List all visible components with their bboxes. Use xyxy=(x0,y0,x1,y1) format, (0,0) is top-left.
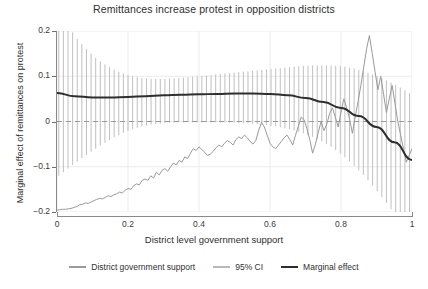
x-axis-line xyxy=(57,216,413,217)
chart-legend: District government support95% CIMargina… xyxy=(0,262,428,272)
y-tick-mark xyxy=(52,31,56,32)
legend-item[interactable]: Marginal effect xyxy=(281,262,359,272)
y-tick-label: 0.2 xyxy=(22,25,50,35)
chart-figure: Remittances increase protest in oppositi… xyxy=(0,0,428,289)
legend-swatch-marginal xyxy=(281,266,298,268)
x-axis-start-cap xyxy=(57,212,58,217)
legend-item[interactable]: District government support xyxy=(69,262,195,272)
x-axis-end-cap xyxy=(412,212,413,217)
plot-area xyxy=(57,31,412,212)
legend-item[interactable]: 95% CI xyxy=(213,262,263,272)
legend-swatch-ci xyxy=(213,266,230,267)
y-tick-mark xyxy=(52,122,56,123)
y-tick-label: 0.1 xyxy=(22,70,50,80)
legend-label: District government support xyxy=(91,262,195,272)
legend-label: 95% CI xyxy=(235,262,263,272)
y-tick-label: −0.1 xyxy=(22,161,50,171)
y-tick-mark xyxy=(52,212,56,213)
x-axis-label: District level government support xyxy=(0,234,428,245)
chart-title: Remittances increase protest in oppositi… xyxy=(0,3,428,15)
x-tick-label: 0.6 xyxy=(260,219,280,229)
x-tick-label: 0.2 xyxy=(118,219,138,229)
x-tick-label: 0.4 xyxy=(189,219,209,229)
legend-swatch-support xyxy=(69,266,86,267)
plot-svg xyxy=(57,31,412,212)
y-tick-mark xyxy=(52,76,56,77)
y-tick-mark xyxy=(52,167,56,168)
x-tick-label: 0.8 xyxy=(331,219,351,229)
y-tick-label: −0.2 xyxy=(22,206,50,216)
y-tick-label: 0 xyxy=(22,116,50,126)
legend-label: Marginal effect xyxy=(303,262,359,272)
x-tick-label: 0 xyxy=(47,219,67,229)
x-tick-label: 1 xyxy=(402,219,422,229)
